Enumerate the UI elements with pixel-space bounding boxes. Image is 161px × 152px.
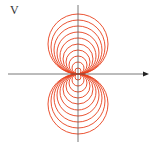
dipole-field-diagram: [0, 0, 161, 152]
arrow-head-icon: [143, 72, 149, 77]
